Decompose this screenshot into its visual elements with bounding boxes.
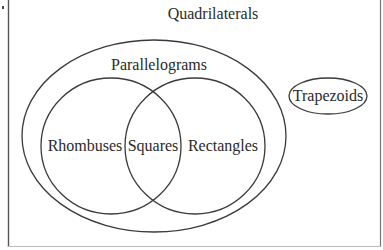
quadrilaterals-label: Quadrilaterals [168, 5, 259, 22]
corner-mark [2, 6, 4, 9]
trapezoids-label: Trapezoids [293, 87, 364, 105]
squares-label: Squares [128, 137, 179, 155]
quadrilateral-venn-diagram: Quadrilaterals Parallelograms Rhombuses … [0, 0, 383, 250]
rectangles-label: Rectangles [188, 137, 258, 155]
parallelograms-label: Parallelograms [111, 56, 207, 74]
rhombuses-label: Rhombuses [48, 137, 123, 154]
